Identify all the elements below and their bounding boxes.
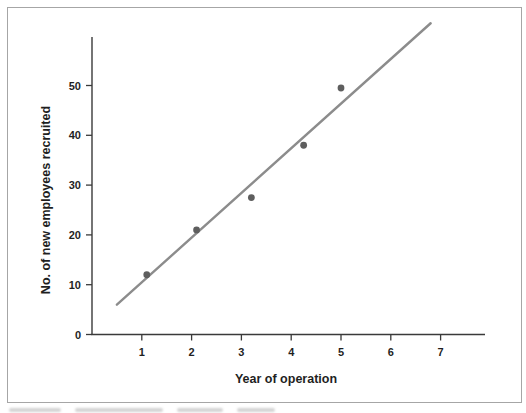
y-tick-label: 0	[75, 329, 81, 341]
data-point	[193, 227, 200, 234]
x-tick-label: 4	[288, 346, 295, 358]
cutoff-caption-remnant	[9, 408, 329, 413]
trend-line	[117, 23, 431, 304]
data-point	[248, 194, 255, 201]
y-tick-label: 20	[69, 229, 81, 241]
y-axis-label: No. of new employees recruited	[39, 106, 53, 294]
x-tick-label: 7	[438, 346, 444, 358]
scatter-chart: 010203040501234567	[0, 0, 526, 413]
y-tick-label: 30	[69, 179, 81, 191]
x-tick-label: 5	[338, 346, 344, 358]
x-tick-label: 6	[388, 346, 394, 358]
data-point	[143, 271, 150, 278]
data-point	[338, 85, 345, 92]
data-point	[300, 142, 307, 149]
x-tick-label: 3	[238, 346, 244, 358]
y-tick-label: 10	[69, 279, 81, 291]
x-tick-label: 1	[139, 346, 145, 358]
x-axis-label: Year of operation	[235, 372, 337, 386]
y-tick-label: 50	[69, 80, 81, 92]
y-tick-label: 40	[69, 129, 81, 141]
x-tick-label: 2	[189, 346, 195, 358]
